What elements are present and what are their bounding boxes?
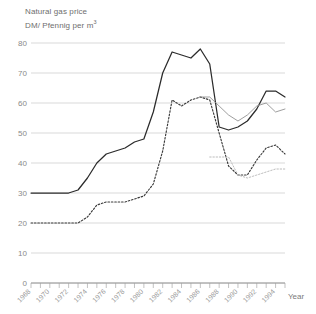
x-tick-label: 1970	[35, 288, 51, 304]
x-tick-label: 1974	[72, 288, 88, 304]
x-tick-label: 1990	[223, 288, 239, 304]
x-tick-label: 1980	[129, 288, 145, 304]
y-tick-label: 80	[18, 39, 27, 48]
x-tick-label: 1992	[242, 288, 258, 304]
x-axis-ticks-group	[31, 283, 285, 288]
x-tick-label: 1986	[185, 288, 201, 304]
data-series-group	[31, 49, 285, 223]
x-tick-label: 1994	[260, 288, 276, 304]
chart-plot-area: 01020304050607080 1968197019721974197619…	[0, 0, 316, 314]
gridlines-group	[31, 43, 285, 283]
y-tick-label: 40	[18, 159, 27, 168]
y-tick-label: 10	[18, 249, 27, 258]
series-line-2	[200, 97, 285, 121]
x-tick-label: 1982	[147, 288, 163, 304]
x-tick-label: 1984	[166, 288, 182, 304]
y-axis-labels-group: 01020304050607080	[18, 39, 27, 288]
y-tick-label: 20	[18, 219, 27, 228]
x-tick-label: 1988	[204, 288, 220, 304]
y-tick-label: 30	[18, 189, 27, 198]
y-tick-label: 50	[18, 129, 27, 138]
y-tick-label: 0	[23, 279, 28, 288]
y-tick-label: 60	[18, 99, 27, 108]
x-tick-label: 1978	[110, 288, 126, 304]
x-tick-label: 1968	[16, 288, 32, 304]
y-tick-label: 70	[18, 69, 27, 78]
series-line-1	[31, 97, 285, 223]
series-line-0	[31, 49, 285, 193]
natural-gas-price-chart: Natural gas price DM/ Pfennig per m3 010…	[0, 0, 316, 314]
x-axis-title: Year	[288, 292, 305, 301]
x-tick-label: 1972	[53, 288, 69, 304]
x-tick-label: 1976	[91, 288, 107, 304]
x-axis-labels-group: 1968197019721974197619781980198219841986…	[16, 288, 277, 304]
